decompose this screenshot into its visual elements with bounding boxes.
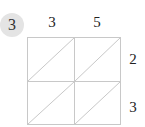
cell-diagonal (28, 82, 75, 125)
lattice-grid (0, 0, 145, 127)
cell-diagonal (28, 38, 75, 82)
cell-diagonal (75, 38, 121, 82)
cell-diagonal (75, 82, 121, 125)
